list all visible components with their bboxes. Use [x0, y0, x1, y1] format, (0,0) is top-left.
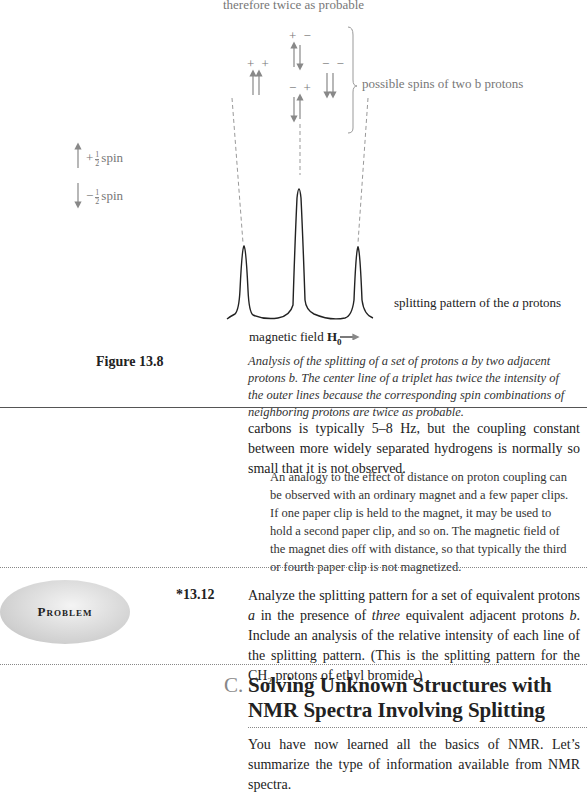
- spectrum-trace: [227, 189, 373, 319]
- brace-icon: [348, 27, 357, 133]
- dotted-divider: [248, 727, 587, 728]
- figure-caption: Analysis of the splitting of a set of pr…: [248, 353, 568, 421]
- magnetic-field-label: magnetic field H0: [249, 329, 342, 347]
- spin-combo-label: − +: [289, 80, 313, 96]
- problem-number: *13.12: [176, 587, 215, 603]
- section-paragraph: You have now learned all the basics of N…: [248, 735, 580, 795]
- spin-arrows-minus-minus-icon: [327, 73, 333, 95]
- spin-arrows-plus-minus-icon: [294, 45, 300, 67]
- dotted-divider: [0, 664, 587, 665]
- spin-combo-label: − −: [322, 56, 346, 72]
- figure-label: Figure 13.8: [96, 354, 163, 370]
- spin-arrows-minus-plus-icon: [294, 97, 300, 119]
- divider: [0, 407, 587, 408]
- problem-badge: Problem: [0, 580, 130, 644]
- aside-paragraph: An analogy to the effect of distance on …: [270, 468, 570, 576]
- splitting-pattern-label: splitting pattern of the a protons: [394, 295, 561, 311]
- dotted-divider: [0, 567, 587, 568]
- nmr-triplet-figure: [0, 0, 587, 340]
- spin-combo-label: + +: [247, 56, 271, 72]
- section-heading: C.Solving Unknown Structures with NMR Sp…: [224, 673, 552, 723]
- legend-minus-half-spin: −12spin: [86, 188, 123, 206]
- spin-combo-label: + −: [289, 28, 313, 44]
- legend-plus-half-spin: +12spin: [86, 150, 123, 168]
- brace-label: possible spins of two b protons: [362, 76, 523, 92]
- spin-arrows-plus-plus-icon: [253, 73, 259, 95]
